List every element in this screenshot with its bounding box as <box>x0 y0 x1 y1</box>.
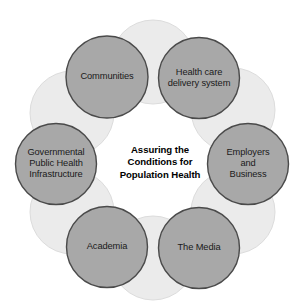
node-circle-academia[interactable] <box>67 207 148 288</box>
node-circle-health-care-delivery-system[interactable] <box>159 38 240 119</box>
center-title: Assuring the Conditions for Population H… <box>120 144 201 181</box>
node-circle-communities[interactable] <box>66 36 148 118</box>
node-circle-the-media[interactable] <box>159 208 240 289</box>
population-health-diagram: CommunitiesHealth care delivery systemEm… <box>0 0 298 307</box>
node-circle-employers-and-business[interactable] <box>208 124 289 205</box>
node-circle-governmental-public-health-infrastructure[interactable] <box>16 124 97 205</box>
